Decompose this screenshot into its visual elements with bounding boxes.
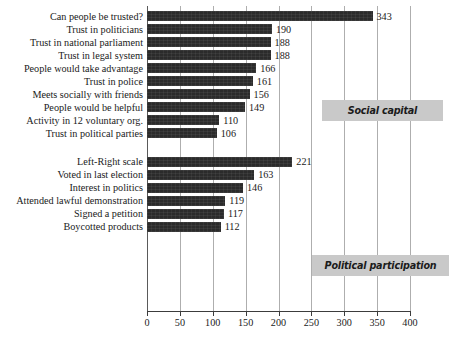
bar xyxy=(147,102,245,112)
x-axis-tick xyxy=(311,312,312,316)
bar xyxy=(147,76,253,86)
bar-value-label: 117 xyxy=(228,209,243,219)
bar xyxy=(147,11,373,21)
bar-value-label: 343 xyxy=(377,12,392,22)
bar-value-label: 110 xyxy=(223,116,238,126)
bar-value-label: 161 xyxy=(257,77,272,87)
bar-value-label: 119 xyxy=(229,196,244,206)
bar xyxy=(147,89,250,99)
x-axis-tick-label: 100 xyxy=(205,317,220,328)
category-label: Trust in police xyxy=(84,77,147,87)
bar-value-label: 166 xyxy=(260,64,275,74)
x-axis-tick xyxy=(180,312,181,316)
x-axis-tick-label: 200 xyxy=(271,317,286,328)
category-label: Attended lawful demonstration xyxy=(16,196,147,206)
x-axis-tick-label: 150 xyxy=(238,317,253,328)
bar xyxy=(147,128,217,138)
x-axis-tick xyxy=(344,312,345,316)
bar xyxy=(147,170,254,180)
category-label: People would take advantage xyxy=(24,64,147,74)
bar-value-label: 112 xyxy=(225,222,240,232)
legend-box-social-capital: Social capital xyxy=(322,100,443,121)
bar-value-label: 188 xyxy=(275,51,290,61)
bar-value-label: 106 xyxy=(221,129,236,139)
bar-value-label: 163 xyxy=(258,170,273,180)
x-axis-tick xyxy=(410,312,411,316)
category-label: Trust in political parties xyxy=(46,129,147,139)
bar-value-label: 156 xyxy=(254,90,269,100)
category-label: Trust in politicians xyxy=(66,25,147,35)
bar xyxy=(147,157,292,167)
bar xyxy=(147,196,225,206)
bar xyxy=(147,50,271,60)
category-label: Left-Right scale xyxy=(77,157,147,167)
bar-value-label: 221 xyxy=(296,157,311,167)
legend-box-political-participation: Political participation xyxy=(312,255,449,276)
bar xyxy=(147,183,243,193)
category-label: Meets socially with friends xyxy=(32,90,147,100)
x-axis-tick xyxy=(377,312,378,316)
bar-value-label: 188 xyxy=(275,38,290,48)
bar xyxy=(147,24,272,34)
x-axis-tick-label: 350 xyxy=(369,317,384,328)
bar xyxy=(147,37,271,47)
legend-label-social-capital: Social capital xyxy=(348,105,417,116)
category-label: Voted in last election xyxy=(57,170,147,180)
bar xyxy=(147,222,221,232)
legend-label-political-participation: Political participation xyxy=(325,260,437,271)
x-axis-tick-label: 0 xyxy=(144,317,149,328)
x-axis-tick xyxy=(279,312,280,316)
bar-value-label: 190 xyxy=(276,25,291,35)
x-axis-tick-label: 300 xyxy=(337,317,352,328)
x-axis-tick xyxy=(246,312,247,316)
bar xyxy=(147,209,224,219)
bar xyxy=(147,115,219,125)
x-axis-tick-label: 250 xyxy=(304,317,319,328)
category-label: Interest in politics xyxy=(69,183,147,193)
category-label: Boycotted products xyxy=(63,222,147,232)
x-axis-tick-label: 400 xyxy=(402,317,417,328)
bar-value-label: 149 xyxy=(249,103,264,113)
category-label: Activity in 12 voluntary org. xyxy=(26,116,147,126)
category-label: Trust in legal system xyxy=(58,51,147,61)
category-label: Trust in national parliament xyxy=(30,38,147,48)
category-label: People would be helpful xyxy=(44,103,147,113)
x-axis-tick-label: 50 xyxy=(175,317,185,328)
category-label: Signed a petition xyxy=(74,209,147,219)
x-axis-tick xyxy=(213,312,214,316)
bar-value-label: 146 xyxy=(247,183,262,193)
bar xyxy=(147,63,256,73)
category-label: Can people be trusted? xyxy=(50,12,147,22)
horizontal-bar-chart: Can people be trusted?Trust in politicia… xyxy=(0,0,453,339)
x-axis-tick xyxy=(147,312,148,316)
